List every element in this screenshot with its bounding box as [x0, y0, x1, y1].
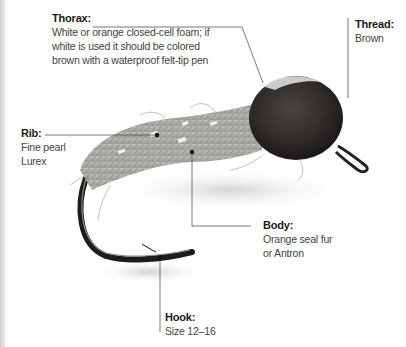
callout-thorax-description: White or orange closed-cell foam; if whi… — [52, 25, 209, 67]
callout-thread-title: Thread: — [355, 17, 394, 31]
callout-thread: Thread: Brown — [355, 17, 394, 45]
body-dot — [190, 150, 194, 154]
callout-thread-description: Brown — [355, 31, 394, 45]
callout-hook-description: Size 12–16 — [165, 324, 216, 338]
hook-eye — [336, 146, 367, 172]
callout-body-title: Body: — [263, 218, 332, 232]
body-shadow — [110, 168, 350, 212]
callout-body: Body: Orange seal fur or Antron — [263, 218, 332, 260]
hook-barb — [142, 244, 156, 252]
callout-hook-title: Hook: — [165, 310, 216, 324]
callout-body-description: Orange seal fur or Antron — [263, 232, 332, 260]
hook-dot — [158, 256, 162, 260]
callout-thorax-title: Thorax: — [52, 11, 209, 25]
hook-shadow — [90, 260, 210, 284]
rib-dot — [155, 133, 159, 137]
callout-thorax: Thorax: White or orange closed-cell foam… — [52, 11, 209, 67]
callout-rib-description: Fine pearl Lurex — [21, 140, 66, 168]
callout-rib: Rib: Fine pearl Lurex — [21, 126, 66, 168]
callout-hook: Hook: Size 12–16 — [165, 310, 216, 338]
thorax-foam — [249, 76, 343, 160]
callout-rib-title: Rib: — [21, 126, 66, 140]
